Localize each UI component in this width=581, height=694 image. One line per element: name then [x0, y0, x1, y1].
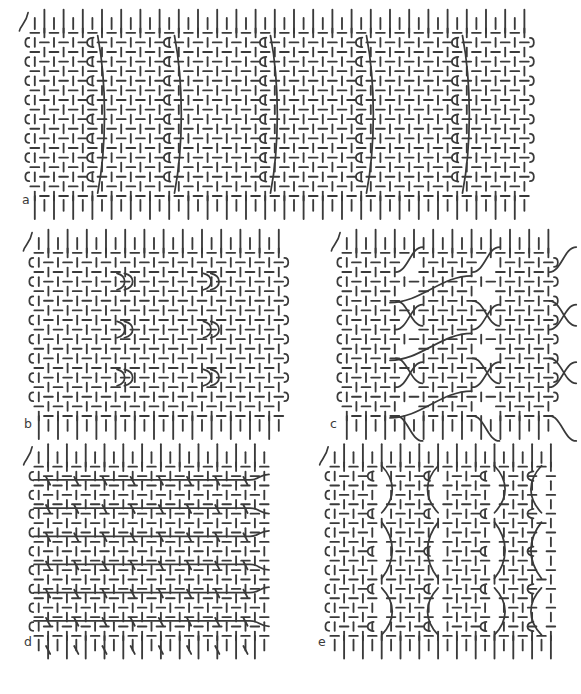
ground-weave-c	[342, 248, 552, 420]
selvedge-loop	[337, 277, 341, 286]
selvedge-loop	[29, 622, 33, 631]
selvedge-loop	[337, 373, 341, 382]
selvedge-loop	[325, 509, 329, 518]
corner-thread-tail	[19, 13, 28, 31]
panel-label-b: b	[24, 418, 32, 431]
supplementary-warp-float	[270, 36, 277, 193]
diagonal-weft-float	[549, 358, 576, 383]
panel-label-a: a	[22, 194, 30, 207]
weave-diagram-panel-d	[8, 436, 295, 667]
selvedge-loop	[25, 76, 29, 85]
selvedge-loop	[284, 354, 288, 363]
selvedge-loop	[530, 38, 534, 47]
diagonal-weft-float	[473, 362, 500, 387]
weave-svg-c	[316, 222, 579, 447]
selvedge-loop	[554, 392, 558, 401]
diagonal-weft-float	[396, 362, 423, 387]
supplementary-warp-float	[366, 36, 373, 193]
figure-root: a b c d e	[0, 0, 581, 694]
ground-weave-b	[34, 248, 283, 420]
diagonal-weft-float	[396, 247, 423, 272]
diagonal-weft-float-long	[390, 391, 472, 418]
warp-ends-a	[35, 10, 525, 219]
tails-c	[331, 233, 340, 251]
warp-ends-b	[39, 230, 279, 439]
selvedge-loop	[337, 296, 341, 305]
selvedge-loop	[530, 115, 534, 124]
tails-d	[24, 447, 32, 465]
weave-diagram-panel-c	[316, 222, 579, 447]
ground-weave-d	[34, 462, 268, 640]
selvedge-loop	[284, 392, 288, 401]
selvedge-loop	[325, 603, 329, 612]
selvedge-loop	[530, 96, 534, 105]
weave-svg-e	[304, 436, 581, 667]
selvedge-loop	[29, 509, 33, 518]
selvedge-loop	[530, 153, 534, 162]
selvedge-loop	[337, 354, 341, 363]
diagonal-weft-float-long	[390, 276, 472, 303]
selvedge-loop	[530, 134, 534, 143]
diagonal-weft-float	[473, 358, 500, 383]
feature-a	[87, 36, 469, 193]
selvedge-loop	[325, 472, 329, 481]
selvedge-e	[325, 472, 329, 631]
selvedge-loop	[325, 547, 329, 556]
panel-label-c: c	[330, 418, 337, 431]
tails-a	[19, 13, 28, 31]
selvedge-loop	[284, 335, 288, 344]
selvedge-loop	[325, 622, 329, 631]
tails-e	[320, 447, 328, 465]
diagonal-weft-float	[549, 362, 576, 387]
selvedge-loop	[554, 277, 558, 286]
selvedge-loop	[325, 491, 329, 500]
selvedge-loop	[29, 547, 33, 556]
selvedge-loop	[284, 316, 288, 325]
selvedge-loop	[29, 491, 33, 500]
selvedge-loop	[554, 316, 558, 325]
feature-e	[368, 466, 542, 635]
diagonal-weft-float	[396, 301, 423, 326]
diagonal-weft-float	[549, 247, 576, 272]
selvedge-loop	[29, 258, 33, 267]
supplementary-warp-float	[174, 36, 181, 193]
selvedge-loop	[325, 585, 329, 594]
selvedge-loop	[29, 392, 33, 401]
selvedge-loop	[29, 585, 33, 594]
selvedge-loop	[337, 335, 341, 344]
diagonal-weft-float	[396, 358, 423, 383]
selvedge-loop	[325, 528, 329, 537]
selvedge-loop	[554, 258, 558, 267]
selvedge-loop	[25, 153, 29, 162]
corner-thread-tail	[331, 233, 340, 251]
selvedge-loop	[337, 316, 341, 325]
selvedge-loop	[554, 335, 558, 344]
selvedge-loop	[284, 277, 288, 286]
selvedge-loop	[337, 392, 341, 401]
selvedge-loop	[29, 566, 33, 575]
weave-diagram-panel-e	[304, 436, 581, 667]
diagonal-weft-float-long	[390, 333, 472, 360]
weave-svg-d	[8, 436, 295, 667]
weave-diagram-panel-a	[4, 2, 555, 227]
supplementary-warp-float	[462, 36, 469, 193]
selvedge-loop	[29, 296, 33, 305]
weave-diagram-panel-b	[8, 222, 310, 447]
diagonal-weft-float	[473, 247, 500, 272]
selvedge-loop	[284, 258, 288, 267]
selvedge-loop	[29, 472, 33, 481]
selvedge-loop	[25, 38, 29, 47]
ground-weave-e	[330, 462, 555, 640]
weave-svg-a	[4, 2, 555, 227]
selvedge-loop	[554, 373, 558, 382]
panel-label-d: d	[24, 636, 32, 649]
tails-b	[23, 233, 32, 251]
diagonal-weft-float	[473, 301, 500, 326]
supplementary-warp-float	[98, 36, 105, 193]
selvedge-loop	[325, 566, 329, 575]
selvedge-d	[29, 472, 33, 631]
selvedge-loop	[284, 373, 288, 382]
selvedge-loop	[25, 172, 29, 181]
diagonal-weft-float	[396, 305, 423, 330]
diagonal-weft-float	[549, 301, 576, 326]
